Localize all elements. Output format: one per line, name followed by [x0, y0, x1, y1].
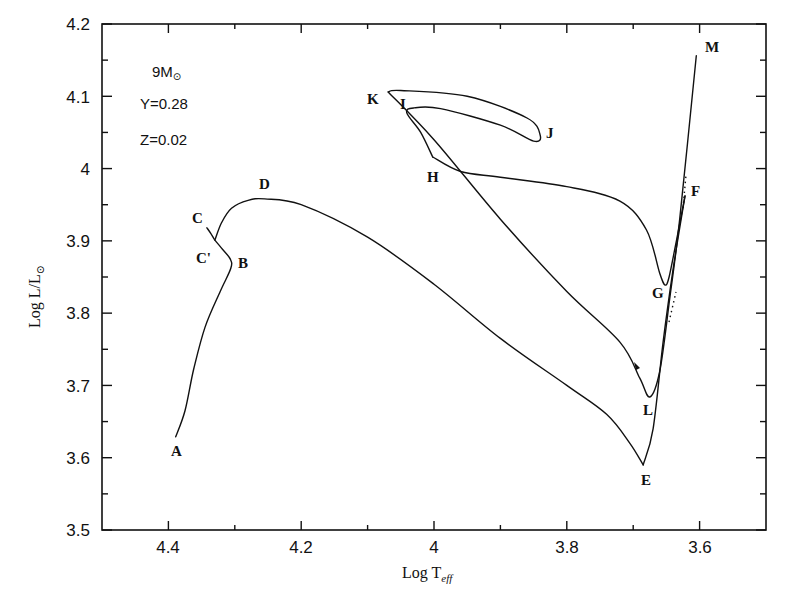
- y-tick-labels: 3.5 3.6 3.7 3.8 3.9 4 4.1 4.2: [66, 15, 90, 540]
- y-tick-label: 4.1: [66, 88, 90, 107]
- point-label-d: D: [259, 176, 270, 192]
- y-tick-label: 3.8: [66, 304, 90, 323]
- y-axis-title: Log L/L⊙: [26, 265, 46, 328]
- y-tick-label: 3.5: [66, 521, 90, 540]
- point-label-f: F: [691, 183, 700, 199]
- dotted-segments: [669, 175, 686, 322]
- evolutionary-track: [176, 56, 697, 465]
- y-tick-label: 3.6: [66, 449, 90, 468]
- point-label-h: H: [427, 169, 439, 185]
- track-segment-cp-d-e: [215, 199, 643, 465]
- model-parameters: 9M⊙ Y=0.28 Z=0.02: [140, 63, 188, 148]
- x-tick-label: 3.6: [688, 538, 712, 557]
- point-label-i: I: [400, 96, 406, 112]
- track-segment-h-i-j-k: [388, 90, 540, 157]
- x-axis-title: Log Teff: [402, 564, 454, 584]
- point-label-c: C: [192, 210, 203, 226]
- axis-ticks: [102, 24, 766, 530]
- point-label-c-prime: C': [196, 250, 211, 266]
- track-segment-f-g-h: [433, 157, 685, 285]
- x-tick-labels: 4.4 4.2 4 3.8 3.6: [156, 538, 712, 557]
- point-label-g: G: [652, 285, 664, 301]
- x-tick-label: 4: [429, 538, 438, 557]
- point-label-m: M: [705, 39, 719, 55]
- y-tick-label: 4: [81, 160, 90, 179]
- point-label-b: B: [238, 255, 248, 271]
- point-label-j: J: [546, 125, 554, 141]
- y-tick-label: 4.2: [66, 15, 90, 34]
- x-tick-label: 3.8: [555, 538, 579, 557]
- point-label-a: A: [171, 443, 182, 459]
- x-tick-label: 4.2: [289, 538, 313, 557]
- point-label-l: L: [643, 402, 653, 418]
- y-tick-label: 3.9: [66, 232, 90, 251]
- point-labels: A B C C' D E F G H I J K L M: [171, 39, 719, 488]
- mass-annotation: 9M⊙: [152, 63, 181, 82]
- x-tick-label: 4.4: [156, 538, 180, 557]
- metallicity-annotation: Z=0.02: [140, 131, 187, 148]
- point-label-k: K: [367, 91, 379, 107]
- y-tick-label: 3.7: [66, 377, 90, 396]
- point-label-e: E: [641, 472, 651, 488]
- plot-frame: [102, 24, 766, 530]
- helium-annotation: Y=0.28: [140, 95, 188, 112]
- hr-diagram-chart: 3.5 3.6 3.7 3.8 3.9 4 4.1 4.2 4.4 4.2 4 …: [0, 0, 793, 601]
